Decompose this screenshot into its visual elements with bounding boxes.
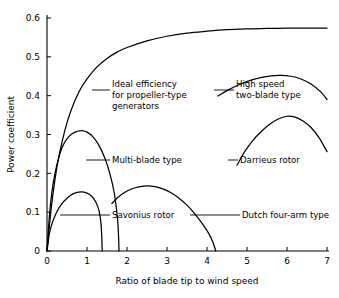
x-axis-title: Ratio of blade tip to wind speed xyxy=(115,276,258,286)
annotation-line: Dutch four-arm type xyxy=(242,210,329,220)
y-tick-label: 0.4 xyxy=(26,91,41,101)
power-coefficient-chart: 00.10.20.30.40.50.601234567 Ideal effici… xyxy=(0,0,339,298)
annotation-label-savonius-rotor: Savonius rotor xyxy=(112,210,175,220)
axes: 00.10.20.30.40.50.601234567 xyxy=(26,13,330,266)
x-tick-label: 3 xyxy=(164,256,170,266)
x-tick-label: 0 xyxy=(44,256,50,266)
x-tick-label: 2 xyxy=(124,256,130,266)
annotation-line: Multi-blade type xyxy=(112,155,182,165)
annotation-line: Savonius rotor xyxy=(112,210,175,220)
chart-figure: 00.10.20.30.40.50.601234567 Ideal effici… xyxy=(0,0,339,298)
y-tick-label: 0.1 xyxy=(26,207,40,217)
annotation-line: two-blade type xyxy=(236,90,301,100)
x-tick-label: 7 xyxy=(324,256,330,266)
annotation-label-dutch-four-arm: Dutch four-arm type xyxy=(242,210,329,220)
annotation-line: Ideal efficiency xyxy=(112,79,177,89)
x-tick-label: 6 xyxy=(284,256,290,266)
annotation-label-ideal-efficiency: Ideal efficiencyfor propeller-typegenera… xyxy=(112,79,187,111)
y-axis-title: Power coefficient xyxy=(6,96,16,173)
x-tick-label: 5 xyxy=(244,256,250,266)
annotation-line: Darrieus rotor xyxy=(240,155,300,165)
annotation-line: High speed xyxy=(236,79,284,89)
annotation-label-darrieus-rotor: Darrieus rotor xyxy=(240,155,300,165)
y-tick-label: 0.6 xyxy=(26,13,41,23)
y-tick-label: 0.2 xyxy=(26,169,40,179)
curve-multi-blade-type xyxy=(47,131,119,251)
annotation-label-high-speed-two-blade: High speedtwo-blade type xyxy=(236,79,301,100)
annotation-line: for propeller-type xyxy=(112,90,187,100)
annotation-label-multi-blade: Multi-blade type xyxy=(112,155,182,165)
y-tick-label: 0.5 xyxy=(26,52,40,62)
y-tick-label: 0.3 xyxy=(26,130,40,140)
y-tick-label: 0 xyxy=(34,246,40,256)
curve-annotations: Ideal efficiencyfor propeller-typegenera… xyxy=(60,79,329,220)
x-tick-label: 4 xyxy=(204,256,210,266)
annotation-line: generators xyxy=(112,101,159,111)
curve-savonius-rotor xyxy=(47,192,102,251)
x-tick-label: 1 xyxy=(84,256,90,266)
